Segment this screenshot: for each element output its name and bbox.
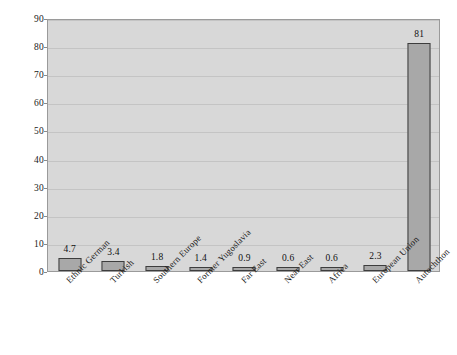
- y-tick-label: 80: [2, 42, 44, 52]
- y-tick-label: 70: [2, 70, 44, 80]
- x-label-slot: Southern Europe: [134, 274, 178, 355]
- bar-value-label: 3.4: [107, 247, 119, 258]
- y-tick-label: 90: [2, 14, 44, 24]
- y-tick-label: 20: [2, 211, 44, 221]
- bar-slot: 0.6: [266, 20, 310, 271]
- y-tick-label: 0: [2, 267, 44, 277]
- y-tick-mark: [44, 272, 47, 273]
- bar-value-label: 1.8: [151, 252, 163, 263]
- bar-value-label: 1.4: [195, 253, 207, 264]
- x-label-slot: Near East: [265, 274, 309, 355]
- x-axis: Ethnic GermanTurkishSouthern EuropeForme…: [47, 274, 440, 355]
- x-label-slot: Africa: [309, 274, 353, 355]
- bar-value-label: 0.6: [326, 253, 338, 264]
- bar-slot: 3.4: [92, 20, 136, 271]
- bar-slot: 2.3: [354, 20, 398, 271]
- x-label-slot: Far East: [222, 274, 266, 355]
- y-tick-label: 40: [2, 155, 44, 165]
- x-label-slot: Turkish: [91, 274, 135, 355]
- bar-value-label: 0.9: [238, 253, 250, 264]
- y-tick-label: 60: [2, 98, 44, 108]
- bar-value-label: 2.3: [369, 251, 381, 262]
- bar-value-label: 0.6: [282, 253, 294, 264]
- x-label-slot: Former Yugoslavia: [178, 274, 222, 355]
- bar-slot: 0.6: [310, 20, 354, 271]
- x-label-slot: Autochthon: [396, 274, 440, 355]
- y-axis: 0102030405060708090: [0, 0, 44, 355]
- bar-slot: 81: [397, 20, 440, 271]
- bar-chart: 0102030405060708090 4.73.41.81.40.90.60.…: [0, 0, 457, 355]
- y-tick-label: 10: [2, 239, 44, 249]
- bar-slot: 1.4: [179, 20, 223, 271]
- bar-value-label: 4.7: [64, 244, 76, 255]
- y-tick-label: 50: [2, 126, 44, 136]
- x-label-slot: Ethnic German: [47, 274, 91, 355]
- bar-slot: 4.7: [48, 20, 92, 271]
- y-tick-label: 30: [2, 183, 44, 193]
- bar-value-label: 81: [414, 29, 424, 40]
- x-label-slot: European Union: [353, 274, 397, 355]
- bar-slot: 1.8: [135, 20, 179, 271]
